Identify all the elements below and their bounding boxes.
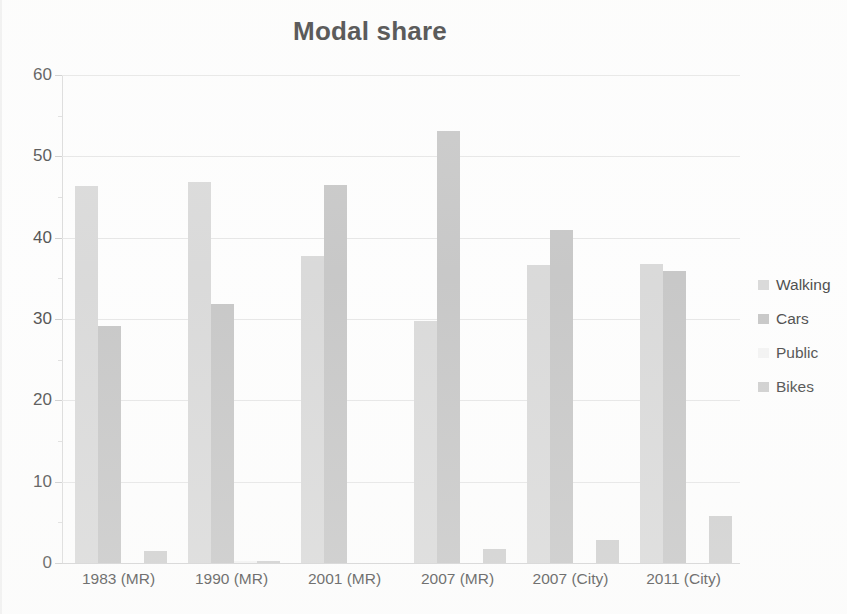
bar bbox=[414, 321, 437, 563]
bar bbox=[709, 516, 732, 563]
x-axis-tick-label: 1990 (MR) bbox=[195, 570, 268, 588]
bar-group bbox=[627, 75, 740, 563]
y-axis-tick bbox=[55, 319, 62, 320]
plot-area bbox=[62, 75, 740, 563]
legend-label: Bikes bbox=[776, 378, 814, 396]
bar bbox=[234, 561, 257, 563]
y-axis-tick-labels: 0102030405060 bbox=[0, 75, 52, 564]
bar bbox=[596, 540, 619, 563]
y-axis-tick-label: 40 bbox=[6, 228, 52, 248]
y-axis-tick bbox=[55, 156, 62, 157]
bar bbox=[550, 230, 573, 563]
y-axis-tick-label: 30 bbox=[6, 309, 52, 329]
bars-layer bbox=[62, 75, 740, 563]
y-axis-tick-label: 20 bbox=[6, 390, 52, 410]
modal-share-chart: Modal share 0102030405060 1983 (MR)1990 … bbox=[0, 0, 847, 614]
bar bbox=[257, 561, 280, 563]
x-axis-tick-labels: 1983 (MR)1990 (MR)2001 (MR)2007 (MR)2007… bbox=[62, 570, 740, 600]
bar bbox=[301, 256, 324, 563]
gridline bbox=[62, 563, 740, 564]
bar bbox=[483, 549, 506, 563]
y-axis-tick-label: 10 bbox=[6, 472, 52, 492]
chart-title: Modal share bbox=[0, 16, 740, 47]
x-axis-tick-label: 2007 (MR) bbox=[421, 570, 494, 588]
x-axis-tick-label: 2001 (MR) bbox=[308, 570, 381, 588]
bar bbox=[211, 304, 234, 563]
legend-swatch-icon bbox=[758, 314, 769, 324]
legend-item[interactable]: Bikes bbox=[758, 370, 846, 404]
bar-group bbox=[401, 75, 514, 563]
legend-label: Cars bbox=[776, 310, 809, 328]
bar bbox=[527, 265, 550, 563]
bar bbox=[663, 271, 686, 563]
bar-group bbox=[62, 75, 175, 563]
y-axis-tick-label: 60 bbox=[6, 65, 52, 85]
legend-swatch-icon bbox=[758, 382, 769, 392]
y-axis-tick bbox=[55, 563, 62, 564]
bar bbox=[640, 264, 663, 563]
legend-label: Walking bbox=[776, 276, 831, 294]
y-axis-tick-label: 50 bbox=[6, 146, 52, 166]
bar bbox=[188, 182, 211, 563]
y-axis-tick-label: 0 bbox=[6, 553, 52, 573]
bar-group bbox=[288, 75, 401, 563]
x-axis-tick-label: 2007 (City) bbox=[533, 570, 609, 588]
x-axis-tick-label: 1983 (MR) bbox=[82, 570, 155, 588]
y-axis-tick bbox=[55, 75, 62, 76]
legend-item[interactable]: Cars bbox=[758, 302, 846, 336]
legend-item[interactable]: Walking bbox=[758, 268, 846, 302]
bar bbox=[437, 131, 460, 563]
bar bbox=[98, 326, 121, 563]
x-axis-tick-label: 2011 (City) bbox=[646, 570, 721, 588]
bar-group bbox=[175, 75, 288, 563]
bar-group bbox=[514, 75, 627, 563]
bar bbox=[75, 186, 98, 563]
legend-label: Public bbox=[776, 344, 818, 362]
bar bbox=[324, 185, 347, 563]
y-axis-tick bbox=[55, 400, 62, 401]
legend-item[interactable]: Public bbox=[758, 336, 846, 370]
legend-swatch-icon bbox=[758, 348, 769, 358]
legend-swatch-icon bbox=[758, 280, 769, 290]
y-axis-tick bbox=[55, 482, 62, 483]
chart-legend: WalkingCarsPublicBikes bbox=[758, 268, 846, 404]
bar bbox=[144, 551, 167, 563]
y-axis-tick bbox=[55, 238, 62, 239]
